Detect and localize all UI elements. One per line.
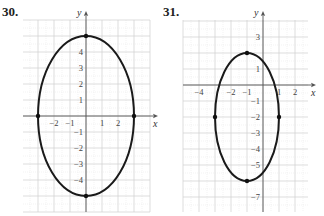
vertex-point xyxy=(245,179,249,183)
y-tick-label: −7 xyxy=(251,192,260,202)
x-tick-label: 2 xyxy=(293,87,297,97)
y-tick-label: −3 xyxy=(251,128,260,138)
y-tick-label: −2 xyxy=(251,112,260,122)
y-tick-label: −4 xyxy=(251,144,261,154)
vertex-point xyxy=(213,115,217,119)
y-tick-label: 1 xyxy=(256,64,260,74)
x-tick-label: −4 xyxy=(194,87,204,97)
y-tick-label: 3 xyxy=(256,32,260,42)
y-tick-label: −1 xyxy=(251,96,260,106)
y-tick-label: −5 xyxy=(251,160,260,170)
x-axis-label: x xyxy=(310,87,316,98)
ellipse-chart-31: xy−4−2−11231−1−2−3−4−5−7 xyxy=(0,0,324,216)
y-axis-label: y xyxy=(253,7,259,18)
x-tick-label: −2 xyxy=(226,87,235,97)
vertex-point xyxy=(245,51,249,55)
vertex-point xyxy=(277,115,281,119)
